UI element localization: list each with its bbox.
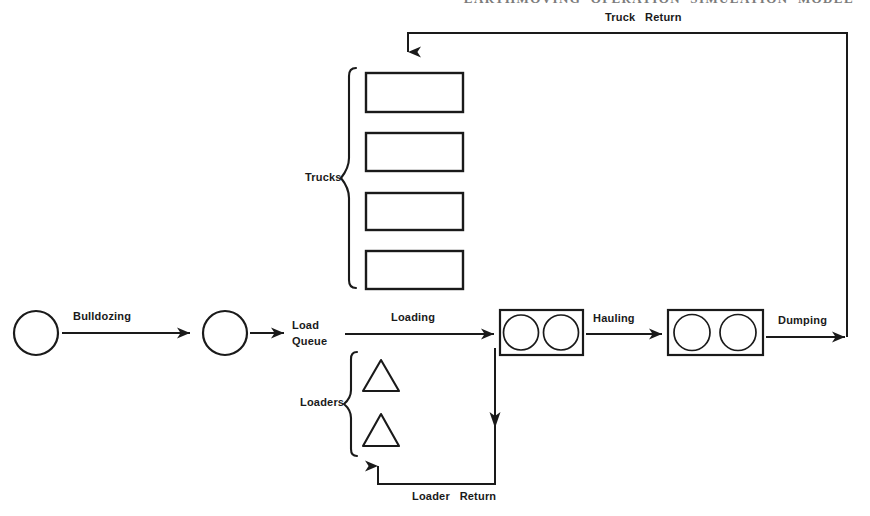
bulldozing-label: Bulldozing	[73, 310, 131, 323]
hauled-truck-wheel-rear	[720, 315, 756, 351]
source-node	[14, 311, 58, 355]
diagram-canvas: EARTHMOVING OPERATION SIMULATION MODEL	[0, 0, 870, 516]
truck-slot-3	[366, 193, 463, 230]
loader-return-path	[378, 348, 495, 484]
loaders-brace	[344, 352, 357, 456]
hauled-truck-wheel-front	[674, 315, 710, 351]
trucks-brace	[341, 68, 356, 288]
dumping-label: Dumping	[778, 314, 827, 327]
hauling-label: Hauling	[593, 312, 635, 325]
truck-slot-2	[366, 133, 463, 171]
loading-label: Loading	[391, 311, 435, 324]
trucks-group-label: Trucks	[305, 171, 342, 184]
truck-return-label: Truck Return	[605, 11, 682, 24]
bulldozed-pile-node	[203, 311, 247, 355]
flow-graphics	[0, 0, 870, 516]
truck-return-path	[408, 33, 847, 337]
load-queue-label-line2: Queue	[292, 334, 327, 349]
truck-slot-4	[366, 251, 463, 289]
truck-slot-1	[366, 73, 463, 112]
loader-2	[363, 414, 399, 446]
loader-return-label: Loader Return	[412, 490, 496, 503]
loaders-group-label: Loaders	[300, 396, 344, 409]
loaded-truck-wheel-front	[504, 315, 539, 350]
load-queue-label-line1: Load	[292, 318, 319, 333]
loaded-truck-wheel-rear	[544, 315, 579, 350]
loader-1	[363, 360, 399, 391]
